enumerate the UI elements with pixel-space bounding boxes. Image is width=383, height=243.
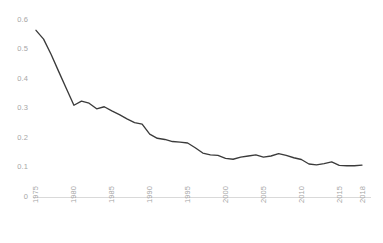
y-tick-label-2: 0.2 bbox=[8, 134, 28, 142]
x-tick-label-1975: 1975 bbox=[32, 186, 40, 203]
x-tick-label-2010: 2010 bbox=[298, 186, 306, 203]
line-chart: 0.6 0.5 0.4 0.3 0.2 0.1 0 1975 1980 1985… bbox=[0, 0, 383, 243]
x-tick-label-2018: 2018 bbox=[359, 186, 367, 203]
y-tick-label-4: 0.4 bbox=[8, 75, 28, 83]
chart-plot-area bbox=[0, 0, 383, 243]
x-tick-label-2000: 2000 bbox=[222, 186, 230, 203]
x-tick-label-2015: 2015 bbox=[336, 186, 344, 203]
x-tick-label-1990: 1990 bbox=[146, 186, 154, 203]
x-tick-label-1980: 1980 bbox=[70, 186, 78, 203]
y-tick-label-3: 0.3 bbox=[8, 104, 28, 112]
data-series-line bbox=[36, 30, 362, 165]
y-tick-label-1: 0.1 bbox=[8, 163, 28, 171]
y-tick-label-5: 0.5 bbox=[8, 45, 28, 53]
x-tick-label-2005: 2005 bbox=[260, 186, 268, 203]
x-tick-label-1995: 1995 bbox=[184, 186, 192, 203]
x-tick-label-1985: 1985 bbox=[108, 186, 116, 203]
y-tick-label-0: 0 bbox=[8, 193, 28, 201]
y-tick-label-6: 0.6 bbox=[8, 16, 28, 24]
